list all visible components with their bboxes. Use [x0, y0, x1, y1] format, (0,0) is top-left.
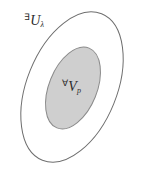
- inner-set-subscript: p: [77, 86, 81, 95]
- outer-set-symbol: U: [30, 13, 40, 28]
- outer-set-subscript: λ: [40, 20, 44, 29]
- inner-set-label: ∀Vp: [62, 79, 81, 95]
- outer-set-label: ∃Uλ: [24, 13, 44, 29]
- nested-ellipse-diagram: ∃Uλ ∀Vp: [0, 0, 144, 178]
- inner-set-symbol: V: [68, 79, 77, 94]
